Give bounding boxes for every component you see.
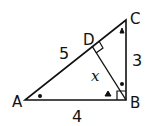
triangle-diagram: A B C D 5 3 4 x	[0, 0, 150, 126]
diagram-canvas: A B C D 5 3 4 x	[0, 0, 150, 126]
side-label-ac: 5	[59, 44, 69, 63]
angle-triangle-c	[120, 28, 124, 33]
triangle-abc	[25, 20, 126, 100]
angle-triangle-b	[105, 91, 111, 96]
angle-dot-b	[120, 82, 124, 86]
side-label-bd: x	[91, 67, 100, 85]
vertex-label-d: D	[83, 31, 95, 49]
side-label-bc: 3	[132, 51, 142, 70]
vertex-label-a: A	[12, 93, 23, 111]
side-label-ab: 4	[72, 107, 82, 126]
vertex-label-c: C	[130, 10, 140, 28]
angle-dot-a	[38, 94, 42, 98]
vertex-label-b: B	[130, 94, 140, 112]
